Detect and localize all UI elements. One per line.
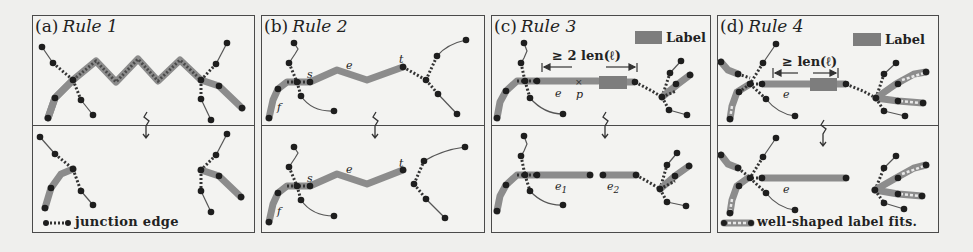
after-graph [266,144,469,226]
label-key-text: Label [666,30,706,45]
annot-e: e [555,87,562,100]
before-graph [266,37,470,122]
panel-d-graph [718,16,940,234]
junction-edge-legend-icon [43,220,71,226]
panel-a-graph [33,16,256,234]
annot-f-top: f [277,101,281,114]
annot-e-top: e [346,59,353,72]
after-graph [494,133,693,215]
transform-arrow-icon [143,112,149,138]
measure-label: ≥ 2 len(ℓ) [552,48,621,64]
transform-arrow-icon [602,112,608,138]
after-graph [718,135,930,217]
annot-t-bottom: t [399,157,403,170]
annot-e1: e1 [555,180,567,195]
label-key-swatch [853,33,881,46]
panel-c-rule-3: (c)Rule 3 × [491,15,711,233]
transform-arrow-icon [372,112,378,138]
label-key-swatch [635,31,662,44]
annot-e-top: e [783,88,790,101]
annot-t-top: t [399,53,403,66]
transform-arrow-icon [820,120,826,146]
annot-f-bottom: f [277,205,281,218]
before-graph [39,40,246,124]
panel-a-rule-1: (a)Rule 1 [32,15,255,233]
annot-e2: e2 [607,180,619,195]
panel-b-graph [262,16,486,234]
before-graph [718,41,930,123]
annot-e-bottom: e [783,183,790,196]
annot-e-bottom: e [346,163,353,176]
svg-text:×: × [575,77,583,87]
annot-p: p [576,88,583,101]
panel-d-rule-4: (d)Rule 4 [717,15,939,233]
annot-s-top: s [307,68,313,81]
well-shaped-legend-label: well-shaped label fits. [757,214,917,229]
measure-label: ≥ len(ℓ) [782,54,837,70]
after-graph [37,131,245,216]
measure-arrow [542,63,637,72]
annot-s-bottom: s [307,172,313,185]
well-shaped-legend-icon [721,220,754,226]
junction-edge-legend-label: junction edge [75,214,179,229]
panel-b-rule-2: (b)Rule 2 [261,15,485,233]
label-key-text: Label [885,32,925,47]
